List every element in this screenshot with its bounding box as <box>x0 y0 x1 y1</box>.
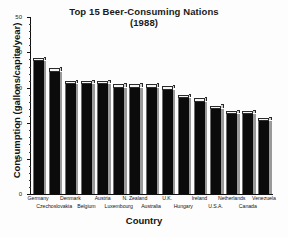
bar-front-face <box>146 88 157 194</box>
bar-top-side-face <box>253 110 256 114</box>
bar-top-side-face <box>76 80 79 84</box>
bar-side-face <box>108 84 111 194</box>
bar-top-face <box>162 86 173 90</box>
bar-front-face <box>33 61 44 194</box>
bar-front-face <box>210 109 221 194</box>
bar-side-face <box>76 84 79 194</box>
bar-top-side-face <box>157 83 160 87</box>
x-tick-label: Netherlands <box>218 195 245 201</box>
x-tick-label: Luxembourg <box>105 203 133 209</box>
bar-front-face <box>242 114 253 194</box>
bar-top-face <box>258 118 269 122</box>
bar <box>194 98 207 194</box>
y-tick-label: 40 <box>15 49 22 55</box>
bar-side-face <box>205 102 208 194</box>
y-tick-label: 10 <box>15 156 22 162</box>
y-tick-label: 30 <box>15 85 22 91</box>
x-tick-label: Hungary <box>174 203 193 209</box>
bar-top-side-face <box>140 83 143 87</box>
bar <box>226 111 239 194</box>
bar-side-face <box>237 114 240 194</box>
bar-series <box>31 17 273 194</box>
bar <box>65 81 78 194</box>
bar-top-side-face <box>269 117 272 121</box>
bar <box>81 81 94 194</box>
x-tick-label: Belgium <box>77 203 95 209</box>
bar <box>49 68 62 194</box>
bar-top-face <box>97 81 108 85</box>
x-tick-label: Denmark <box>60 195 81 201</box>
x-tick-label: U.S.A. <box>208 203 223 209</box>
bar-side-face <box>60 72 63 194</box>
bar-top-side-face <box>237 110 240 114</box>
bar-front-face <box>65 84 76 194</box>
bar-front-face <box>81 84 92 194</box>
bar-front-face <box>49 72 60 194</box>
bar-top-face <box>226 111 237 115</box>
y-tick-label: 20 <box>15 120 22 126</box>
plot-area: 01020304050 <box>31 17 273 194</box>
bar-top-face <box>194 98 205 102</box>
bar-top-face <box>33 58 44 62</box>
y-axis-title: Consumption (gallons/capita/year) <box>11 11 22 191</box>
bar <box>162 86 175 194</box>
bar-top-side-face <box>173 85 176 89</box>
bar-top-face <box>146 84 157 88</box>
y-tick-label: 0 <box>19 191 22 197</box>
bar <box>178 95 191 194</box>
bar-side-face <box>189 98 192 194</box>
bar-front-face <box>113 88 124 194</box>
bar-side-face <box>124 88 127 194</box>
bar-top-side-face <box>221 104 224 108</box>
bar-side-face <box>140 88 143 194</box>
bar-side-face <box>221 109 224 194</box>
bar-top-face <box>129 84 140 88</box>
bar <box>97 81 110 194</box>
bar-top-side-face <box>92 80 95 84</box>
bar <box>129 84 142 194</box>
bar-front-face <box>178 98 189 194</box>
bar-top-face <box>113 84 124 88</box>
bar-top-side-face <box>189 94 192 98</box>
bar-top-face <box>81 81 92 85</box>
bar <box>210 106 223 195</box>
bar-side-face <box>173 90 176 194</box>
bar-top-face <box>65 81 76 85</box>
bar-top-face <box>178 95 189 99</box>
bar-top-side-face <box>205 97 208 101</box>
x-tick-label: U.K. <box>162 195 172 201</box>
x-tick-label: N. Zealand <box>122 195 147 201</box>
bar-side-face <box>92 84 95 194</box>
x-axis-tick-labels: GermanyCzechoslovakiaDenmarkBelgiumAustr… <box>31 195 273 215</box>
bar-top-side-face <box>124 83 127 87</box>
bar-top-side-face <box>44 57 47 61</box>
bar-top-side-face <box>108 80 111 84</box>
bar <box>146 84 159 194</box>
x-tick-label: Czechoslovakia <box>36 203 72 209</box>
x-axis-title: Country <box>0 215 288 226</box>
x-tick-label: Canada <box>239 203 257 209</box>
bar-front-face <box>194 102 205 194</box>
bar <box>113 84 126 194</box>
x-tick-label: Austria <box>95 195 111 201</box>
bar-top-face <box>210 106 221 110</box>
bar-side-face <box>157 88 160 194</box>
bar-top-face <box>49 68 60 72</box>
x-tick-label: Ireland <box>192 195 208 201</box>
x-tick-label: Australia <box>141 203 161 209</box>
bar-side-face <box>253 114 256 194</box>
x-tick-label: Venezuela <box>252 195 276 201</box>
bar-side-face <box>44 61 47 194</box>
bar-top-side-face <box>60 67 63 71</box>
y-tick-label: 50 <box>15 14 22 20</box>
bar-front-face <box>129 88 140 194</box>
bar-side-face <box>269 121 272 194</box>
bar-front-face <box>97 84 108 194</box>
chart-title: Top 15 Beer-Consuming Nations <box>0 6 288 17</box>
chart-page: Top 15 Beer-Consuming Nations (1988) Con… <box>0 0 288 238</box>
bar-top-face <box>242 111 253 115</box>
bar <box>242 111 255 194</box>
bar-front-face <box>226 114 237 194</box>
bar-front-face <box>258 121 269 194</box>
bar <box>258 118 271 194</box>
